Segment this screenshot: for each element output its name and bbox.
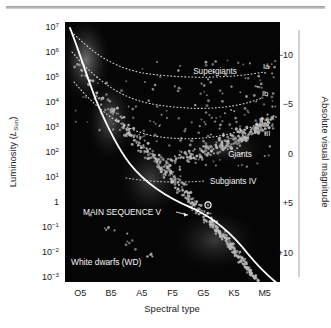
y2-tick-label: +5 [283,198,293,208]
star-point [136,140,138,142]
star-point [107,226,109,228]
star-point [228,142,230,144]
star-point [98,130,100,132]
star-point [181,186,183,188]
star-point [249,62,251,64]
star-point [250,272,252,274]
star-point [76,63,79,66]
star-point [184,128,186,130]
star-point [206,104,209,107]
star-point [230,86,232,88]
star-point [210,149,213,152]
star-point [246,271,248,273]
y-tick-label: 102 [46,146,60,157]
star-point [254,127,257,130]
star-point [264,155,266,157]
star-point [116,106,119,109]
star-point [177,178,180,181]
star-point [215,225,218,228]
star-point [267,124,269,126]
star-point [139,150,142,153]
star-point [218,139,221,142]
star-point [120,89,123,92]
star-point [226,242,229,245]
star-point [255,274,257,276]
x-tick-label: F5 [167,288,178,298]
star-point [116,113,118,115]
star-point [81,75,83,77]
star-point [210,134,212,136]
star-point [149,153,151,155]
star-point [257,86,259,88]
star-point [195,200,198,203]
x-tick-label: M5 [258,288,271,298]
star-point [97,82,99,84]
star-point [185,184,187,186]
star-point [240,260,242,262]
y-tick-label: 10−1 [42,221,60,232]
star-point [271,63,273,65]
star-point [245,140,247,142]
star-point [171,173,173,175]
star-point [257,132,260,135]
star-point [272,127,274,129]
star-point [212,160,214,162]
star-point [174,155,176,157]
star-point [206,150,208,152]
star-point [226,136,229,139]
star-point [112,128,114,130]
y2-tick-label: −10 [278,50,293,60]
star-point [254,119,257,122]
star-point [248,269,251,272]
star-point [177,117,180,120]
star-point [126,135,128,137]
star-point [232,143,234,145]
star-point [105,93,108,96]
star-point [119,129,121,131]
star-point [253,94,256,97]
star-point [161,114,163,116]
star-point [144,156,147,159]
y-tick-label: 10−3 [42,271,60,282]
x-tick-label: A5 [136,288,147,298]
star-point [205,146,207,148]
star-point [168,174,171,177]
star-point [153,121,155,123]
star-point [198,213,200,215]
star-point [250,133,252,135]
star-point [273,76,275,78]
y2-axis-title: Absolute visual magnitude [320,97,331,208]
y-tick-label: 105 [46,71,60,82]
svg-text:Luminosity (LSun): Luminosity (LSun) [7,117,19,188]
star-point [226,139,229,142]
star-point [166,110,168,112]
x-tick-label: B5 [106,288,117,298]
star-point [156,61,158,63]
star-point [181,151,183,153]
star-point [177,69,180,72]
y2-tick-label: 0 [288,149,293,159]
star-point [188,150,191,153]
star-point [189,144,192,147]
star-point [208,220,211,223]
star-point [158,154,161,157]
star-point [123,134,126,137]
star-point [174,187,177,190]
star-point [146,255,149,258]
star-point [120,116,123,119]
y-axis-title: Luminosity (LSun) [7,117,19,188]
star-point [126,240,128,242]
star-point [190,140,192,142]
star-point [205,123,207,125]
star-point [241,164,243,166]
star-point [213,152,215,154]
star-point [274,60,276,62]
star-point [178,154,180,156]
star-point [133,139,136,142]
star-point [131,143,134,146]
star-point [173,176,175,178]
star-point [166,166,168,168]
star-point [186,191,188,193]
star-point [127,129,129,131]
star-point [246,109,248,111]
